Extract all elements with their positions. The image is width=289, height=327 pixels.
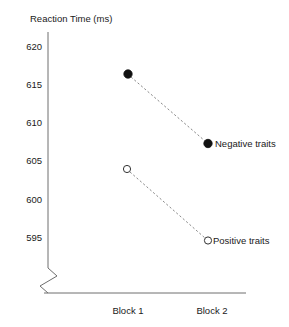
- series-label-negative-traits: Negative traits: [215, 138, 276, 149]
- data-point-positive-block-2: [204, 237, 211, 244]
- series-line-positive-traits: [130, 172, 205, 238]
- y-tick-label-605: 605: [26, 155, 42, 166]
- y-axis-break-icon: [40, 262, 57, 293]
- reaction-time-line-chart: Reaction Time (ms) 620 615 610 605 600 5…: [0, 0, 289, 327]
- data-point-negative-block-1: [124, 70, 132, 78]
- y-tick-label-595: 595: [26, 232, 42, 243]
- y-tick-label-620: 620: [26, 41, 42, 52]
- x-tick-label-block-1: Block 1: [112, 305, 143, 316]
- data-point-positive-block-1: [123, 165, 130, 172]
- x-tick-label-block-2: Block 2: [196, 305, 227, 316]
- y-axis-title: Reaction Time (ms): [30, 13, 112, 24]
- data-point-negative-block-2: [204, 139, 212, 147]
- y-tick-label-600: 600: [26, 194, 42, 205]
- series-label-positive-traits: Positive traits: [213, 235, 270, 246]
- y-tick-label-615: 615: [26, 79, 42, 90]
- series-line-negative-traits: [131, 77, 205, 141]
- chart-container: Reaction Time (ms) 620 615 610 605 600 5…: [0, 0, 289, 327]
- y-tick-label-610: 610: [26, 117, 42, 128]
